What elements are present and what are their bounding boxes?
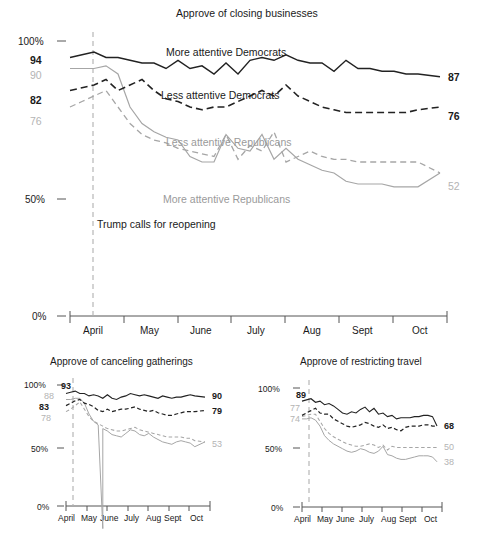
travel-end-value-68: 68 <box>444 421 454 431</box>
main-end-value-52: 52 <box>448 180 460 192</box>
gatherings-x-axis <box>66 501 210 506</box>
travel-ytick-100: 100% <box>258 384 280 394</box>
main-xtick-sept: Sept <box>352 325 373 336</box>
main-start-value-82: 82 <box>30 94 42 106</box>
travel-xtick-sept: Sept <box>399 514 417 524</box>
travel-end-value-50: 50 <box>444 442 454 452</box>
figure-container: Approve of closing businesses 100% 50% 0… <box>0 0 480 539</box>
travel-start-value-74: 74 <box>290 414 300 424</box>
travel-panel-title: Approve of restricting travel <box>300 356 422 367</box>
main-ytick-0: 0% <box>32 311 47 322</box>
gatherings-panel-title: Approve of canceling gatherings <box>50 356 193 367</box>
main-panel-title: Approve of closing businesses <box>176 7 318 19</box>
travel-ytick-0: 0% <box>271 503 284 513</box>
series-label-less-attentive-democrats: Less attentive Democrats <box>161 89 279 101</box>
gatherings-start-value-83: 83 <box>39 402 49 412</box>
travel-line-more-attentive-democrats <box>302 399 437 426</box>
gatherings-end-value-90: 90 <box>212 391 222 401</box>
main-annotation: Trump calls for reopening <box>97 218 216 230</box>
travel-ytick-50: 50% <box>265 444 282 454</box>
main-x-ticks <box>70 316 447 323</box>
main-start-value-76: 76 <box>30 115 42 127</box>
main-xtick-april: April <box>83 325 103 336</box>
gatherings-xtick-oct: Oct <box>190 513 204 523</box>
main-end-value-87: 87 <box>448 71 460 83</box>
travel-x-axis <box>302 502 442 507</box>
travel-xtick-july: July <box>359 514 375 524</box>
travel-start-value-77: 77 <box>290 403 300 413</box>
gatherings-line-more-attentive-democrats <box>66 391 205 399</box>
main-x-axis <box>70 311 447 316</box>
main-xtick-aug: Aug <box>303 325 321 336</box>
gatherings-xtick-sept: Sept <box>164 513 182 523</box>
gatherings-ytick-50: 50% <box>31 444 48 454</box>
gatherings-xtick-april: April <box>58 513 75 523</box>
main-start-value-90: 90 <box>30 69 42 81</box>
travel-line-less-attentive-republicans <box>302 414 437 450</box>
travel-xtick-may: May <box>317 514 334 524</box>
series-line-more-attentive-republicans <box>70 66 440 187</box>
travel-end-value-38: 38 <box>444 457 454 467</box>
chart-svg: Approve of closing businesses 100% 50% 0… <box>0 0 480 539</box>
panel-main: Approve of closing businesses 100% 50% 0… <box>18 7 460 336</box>
main-xtick-may: May <box>140 325 159 336</box>
gatherings-xtick-july: July <box>124 513 140 523</box>
gatherings-start-value-93: 93 <box>61 381 71 391</box>
travel-xtick-april: April <box>294 514 311 524</box>
travel-xtick-june: June <box>336 514 355 524</box>
gatherings-x-ticks <box>66 506 210 511</box>
panel-travel: Approve of restricting travel 100% 50% 0… <box>258 356 454 524</box>
series-label-more-attentive-republicans: More attentive Republicans <box>163 193 290 205</box>
gatherings-ytick-0: 0% <box>37 502 50 512</box>
gatherings-start-value-78: 78 <box>41 413 51 423</box>
main-end-value-76: 76 <box>448 110 460 122</box>
gatherings-end-value-53: 53 <box>212 439 222 449</box>
gatherings-end-value-79: 79 <box>212 406 222 416</box>
series-label-more-attentive-democrats: More attentive Democrats <box>166 46 286 58</box>
panel-gatherings: Approve of canceling gatherings 100% 50%… <box>24 356 222 529</box>
series-line-less-attentive-republicans <box>70 91 440 174</box>
main-xtick-oct: Oct <box>412 325 428 336</box>
travel-start-value-89: 89 <box>296 390 306 400</box>
series-label-less-attentive-republicans: Less attentive Republicans <box>166 136 292 148</box>
main-xtick-july: July <box>247 325 265 336</box>
gatherings-start-value-88: 88 <box>44 391 54 401</box>
main-xtick-june: June <box>190 325 212 336</box>
gatherings-ytick-100: 100% <box>24 380 46 390</box>
main-start-value-94: 94 <box>30 54 42 66</box>
travel-xtick-aug: Aug <box>381 514 396 524</box>
gatherings-xtick-aug: Aug <box>146 513 161 523</box>
travel-x-ticks <box>302 507 442 512</box>
main-ytick-100: 100% <box>18 36 44 47</box>
travel-xtick-oct: Oct <box>424 514 438 524</box>
gatherings-xtick-may: May <box>81 513 98 523</box>
main-ytick-50: 50% <box>25 194 45 205</box>
